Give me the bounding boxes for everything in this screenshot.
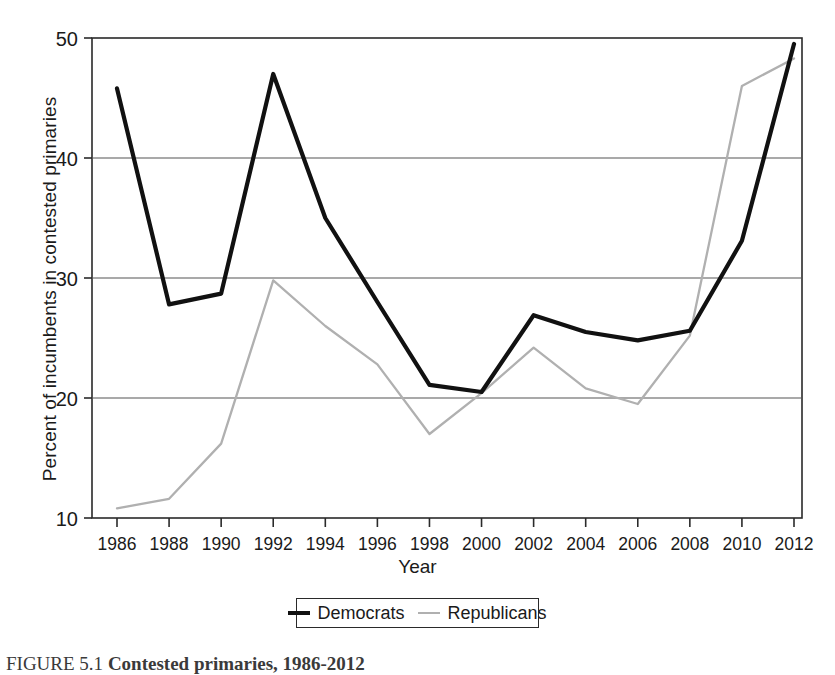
ytick-label-20: 20	[56, 388, 78, 410]
xtick-label-1988: 1988	[150, 534, 189, 554]
legend-label-republicans: Republicans	[447, 603, 546, 624]
legend-entry-democrats: Democrats	[288, 603, 404, 624]
chart-legend: Democrats Republicans	[296, 598, 539, 628]
xtick-label-2012: 2012	[775, 534, 814, 554]
ytick-label-30: 30	[56, 268, 78, 290]
legend-entry-republicans: Republicans	[418, 603, 546, 624]
xtick-label-2008: 2008	[670, 534, 709, 554]
series-line-democrats	[117, 44, 794, 392]
xtick-label-1990: 1990	[202, 534, 241, 554]
xtick-label-1998: 1998	[410, 534, 449, 554]
chart-plot: 50 40 30 20 10 1986198819901992199419961…	[0, 0, 835, 560]
xtick-label-1996: 1996	[358, 534, 397, 554]
x-axis-title: Year	[0, 556, 835, 578]
x-axis-ticks	[117, 518, 794, 527]
series-line-republicans	[117, 58, 794, 508]
xtick-label-2010: 2010	[722, 534, 761, 554]
legend-line-swatch-democrats	[288, 611, 310, 616]
xtick-label-2004: 2004	[566, 534, 605, 554]
x-axis-tick-labels: 1986198819901992199419961998200020022004…	[98, 534, 814, 554]
xtick-label-1992: 1992	[254, 534, 293, 554]
xtick-label-1986: 1986	[98, 534, 137, 554]
xtick-label-2006: 2006	[618, 534, 657, 554]
xtick-label-2000: 2000	[462, 534, 501, 554]
ytick-label-50: 50	[56, 28, 78, 50]
legend-line-swatch-republicans	[418, 612, 440, 614]
y-axis-ticks	[84, 38, 92, 518]
xtick-label-2002: 2002	[514, 534, 553, 554]
y-axis-tick-labels: 50 40 30 20 10	[56, 28, 78, 530]
figure-caption: FIGURE 5.1 Contested primaries, 1986-201…	[6, 653, 365, 675]
ytick-label-40: 40	[56, 148, 78, 170]
ytick-label-10: 10	[56, 508, 78, 530]
data-series-layer	[117, 44, 794, 508]
legend-label-democrats: Democrats	[317, 603, 404, 624]
gridlines	[92, 158, 802, 398]
figure-caption-title: Contested primaries, 1986-2012	[108, 653, 365, 674]
xtick-label-1994: 1994	[306, 534, 345, 554]
figure-caption-prefix: FIGURE 5.1	[6, 653, 103, 674]
